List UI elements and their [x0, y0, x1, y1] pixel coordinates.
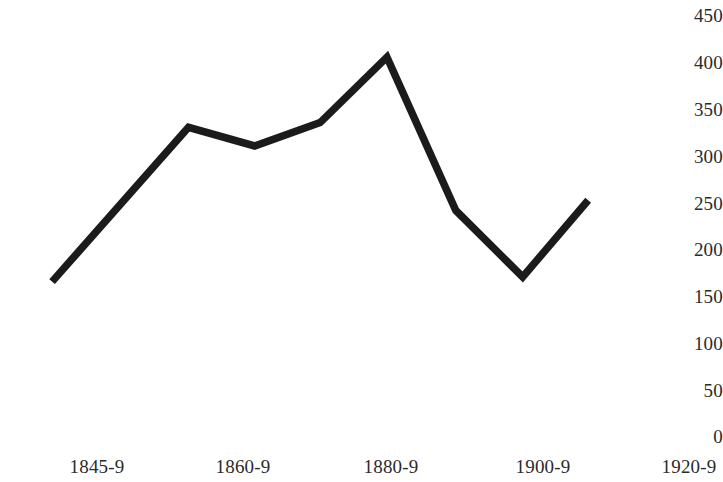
- plot-area: [0, 0, 723, 482]
- data-series-line: [52, 57, 588, 282]
- line-chart: 450 400 350 300 250 200 150 100 50 0 184…: [0, 0, 723, 482]
